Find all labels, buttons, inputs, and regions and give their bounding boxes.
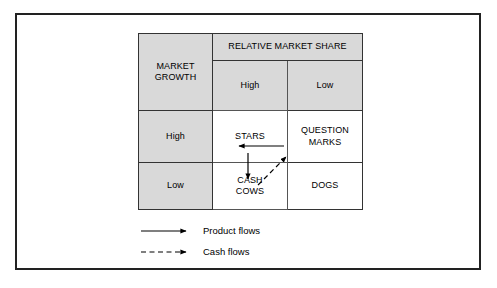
bcg-matrix-table: MARKET GROWTH RELATIVE MARKET SHARE High…: [138, 33, 363, 210]
matrix-header-row-title: MARKET GROWTH RELATIVE MARKET SHARE: [139, 34, 363, 61]
dashed-arrow-icon: [140, 245, 192, 259]
quadrant-dogs-label: DOGS: [288, 180, 362, 191]
quadrant-dogs: DOGS: [288, 163, 363, 210]
quadrant-stars: STARS: [213, 111, 288, 163]
legend-item-product-flows: Product flows: [140, 220, 400, 241]
legend-item-cash-flows: Cash flows: [140, 241, 400, 262]
quadrant-question-marks-label-line1: QUESTION: [288, 125, 362, 136]
figure-outer-frame: MARKET GROWTH RELATIVE MARKET SHARE High…: [15, 13, 481, 270]
column-header-low: Low: [288, 61, 363, 111]
market-growth-axis-label: MARKET GROWTH: [139, 34, 213, 111]
quadrant-cash-cows-label-line2: COWS: [213, 186, 287, 197]
market-growth-axis-label-line2: GROWTH: [139, 72, 212, 83]
legend-label-cash-flows: Cash flows: [203, 246, 249, 257]
matrix-row-low-growth: Low CASH COWS DOGS: [139, 163, 363, 210]
legend: Product flows Cash flows: [140, 220, 400, 262]
quadrant-cash-cows-label-line1: CASH: [213, 175, 287, 186]
solid-arrow-icon: [140, 224, 192, 238]
quadrant-cash-cows: CASH COWS: [213, 163, 288, 210]
matrix-row-high-growth: High STARS QUESTION MARKS: [139, 111, 363, 163]
row-header-high: High: [139, 111, 213, 163]
market-growth-axis-label-line1: MARKET: [139, 61, 212, 72]
column-header-high: High: [213, 61, 288, 111]
row-header-low: Low: [139, 163, 213, 210]
quadrant-stars-label: STARS: [213, 131, 287, 142]
legend-label-product-flows: Product flows: [203, 225, 260, 236]
quadrant-question-marks-label-line2: MARKS: [288, 137, 362, 148]
relative-market-share-axis-label: RELATIVE MARKET SHARE: [213, 34, 363, 61]
quadrant-question-marks: QUESTION MARKS: [288, 111, 363, 163]
